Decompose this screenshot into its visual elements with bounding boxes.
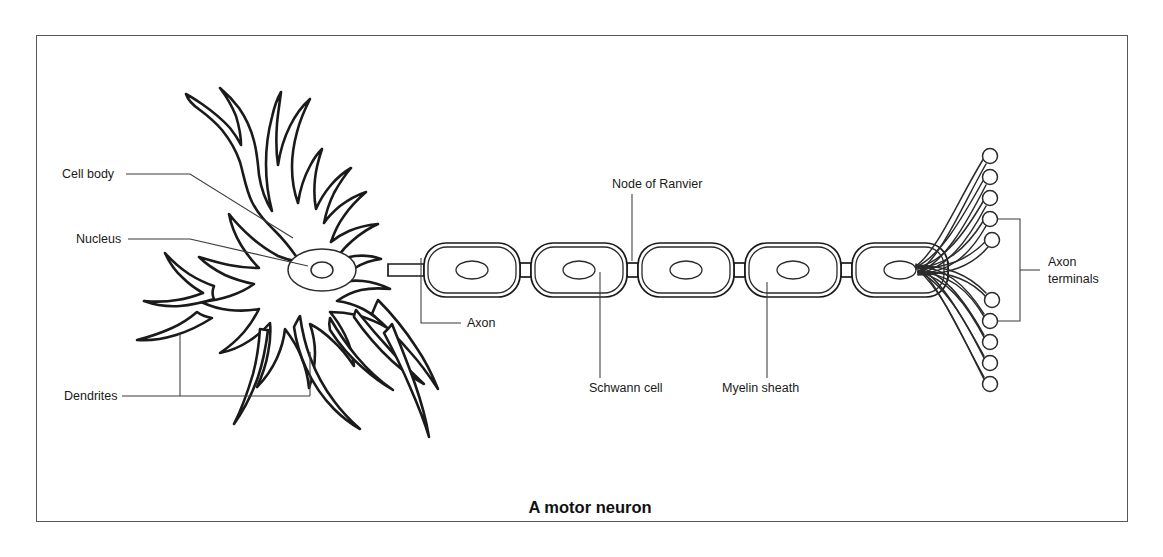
figure-caption: A motor neuron [528,498,651,516]
soma-and-dendrites [137,88,438,437]
nucleolus-outline [311,262,333,278]
label-axon-terminals-line2: terminals [1048,272,1099,286]
label-myelin-sheath: Myelin sheath [722,381,799,395]
schwann-cell-nucleus [456,261,488,279]
node-of-ranvier-3 [734,263,745,277]
axon-hillock [388,264,424,276]
axon-and-myelin [388,243,948,297]
node-of-ranvier-1 [520,263,531,277]
node-of-ranvier-2 [627,263,638,277]
schwann-cell-nucleus [670,261,702,279]
terminal-bulb [983,335,998,350]
label-axon-terminals-line1: Axon [1048,255,1077,269]
terminal-bulb [983,170,998,185]
schwann-cell-nucleus [777,261,809,279]
label-axon: Axon [467,316,496,330]
terminal-bulb [983,314,998,329]
terminal-bulb [985,293,1000,308]
cell-body-outline [186,88,390,388]
terminal-bulb [983,191,998,206]
axon-terminals-group [916,149,1000,392]
schwann-cell-nucleus [884,261,916,279]
terminal-bulb [983,377,998,392]
label-nucleus: Nucleus [76,232,121,246]
myelin-sheath-group [424,243,948,297]
motor-neuron-diagram: Cell body Nucleus Dendrites Axon Node of… [0,0,1163,557]
label-node-of-ranvier: Node of Ranvier [612,177,702,191]
schwann-cell-nucleus [563,261,595,279]
node-of-ranvier-4 [841,263,852,277]
terminal-bulb [983,356,998,371]
dendrite-lower-left-2 [137,312,212,340]
leader-axon-terminals-bracket [998,219,1020,321]
terminal-bulb [985,233,1000,248]
terminal-bulb [983,212,998,227]
label-cell-body: Cell body [62,167,115,181]
label-dendrites: Dendrites [64,389,118,403]
terminal-bulb [983,149,998,164]
figure-root: Cell body Nucleus Dendrites Axon Node of… [0,0,1163,557]
label-schwann-cell: Schwann cell [589,381,663,395]
